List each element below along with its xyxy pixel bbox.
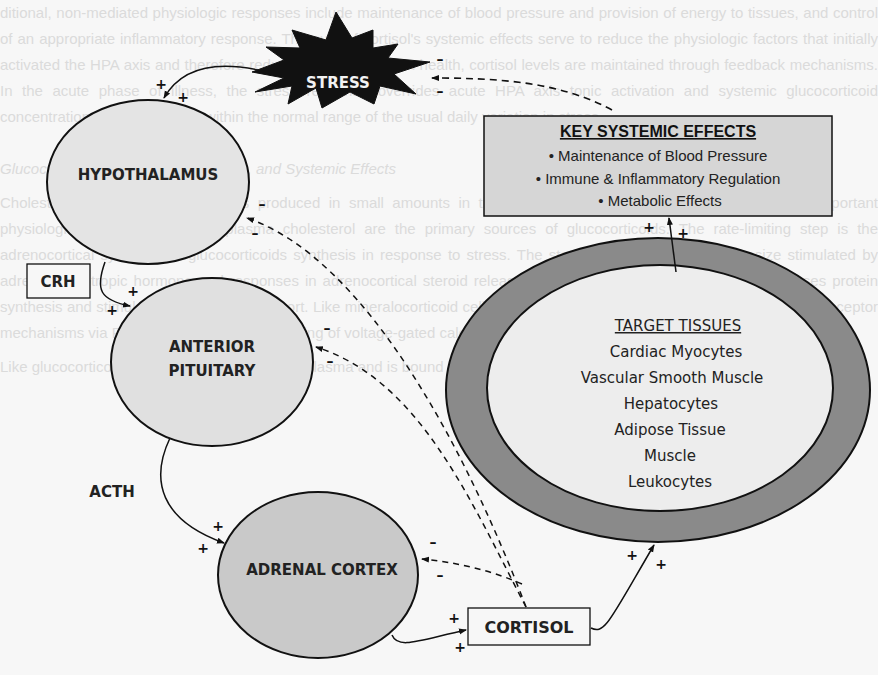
dashed-arrow-effects-to-stress — [432, 78, 612, 110]
anterior-pituitary-node: ANTERIOR PITUITARY — [111, 278, 313, 446]
plus-sign: + — [626, 547, 638, 563]
minus-sign: – — [437, 567, 444, 583]
key-effect-item: • Immune & Inflammatory Regulation — [536, 170, 781, 187]
plus-sign: + — [448, 610, 460, 626]
minus-sign: – — [327, 353, 334, 369]
target-tissues-node: TARGET TISSUES Cardiac Myocytes Vascular… — [446, 238, 870, 542]
target-tissue-item: Adipose Tissue — [614, 421, 725, 439]
arrow-hypothalamus-to-pituitary — [100, 262, 130, 306]
plus-sign: + — [197, 540, 209, 556]
crh-box: CRH — [27, 264, 90, 298]
key-effect-item: • Metabolic Effects — [598, 192, 721, 209]
plus-sign: + — [454, 639, 466, 655]
plus-sign: + — [106, 302, 118, 318]
plus-sign: + — [677, 225, 689, 241]
key-systemic-effects-title: KEY SYSTEMIC EFFECTS — [560, 123, 757, 140]
arrow-cortisol-to-tissues — [591, 545, 654, 630]
crh-label: CRH — [40, 273, 75, 291]
stress-burst-shape — [252, 12, 430, 108]
target-tissue-item: Hepatocytes — [624, 395, 719, 413]
hypothalamus-node: HYPOTHALAMUS — [47, 100, 249, 264]
plus-sign: + — [155, 76, 167, 92]
minus-sign: – — [430, 534, 437, 550]
adrenal-cortex-node: ADRENAL CORTEX — [218, 492, 418, 658]
target-tissues-title: TARGET TISSUES — [614, 317, 741, 335]
target-tissue-item: Cardiac Myocytes — [610, 343, 743, 361]
cortisol-label: CORTISOL — [484, 618, 573, 637]
stress-label: STRESS — [306, 74, 370, 92]
minus-sign: – — [437, 83, 444, 99]
plus-sign: + — [212, 518, 224, 534]
minus-sign: – — [252, 225, 259, 241]
cortisol-box: CORTISOL — [468, 608, 590, 645]
adrenal-cortex-label: ADRENAL CORTEX — [246, 561, 398, 579]
target-tissue-item: Leukocytes — [628, 473, 712, 491]
hpa-axis-diagram: TARGET TISSUES Cardiac Myocytes Vascular… — [0, 0, 878, 675]
plus-sign: + — [127, 283, 139, 299]
plus-sign: + — [655, 556, 667, 572]
stress-node: STRESS — [252, 12, 430, 108]
target-tissue-item: Muscle — [644, 447, 696, 465]
target-tissue-item: Vascular Smooth Muscle — [581, 369, 764, 387]
plus-sign: + — [177, 89, 189, 105]
key-systemic-effects-box: KEY SYSTEMIC EFFECTS • Maintenance of Bl… — [484, 116, 832, 216]
minus-sign: – — [259, 196, 266, 212]
acth-label: ACTH — [89, 483, 134, 501]
minus-sign: – — [324, 320, 331, 336]
anterior-pituitary-label-line1: ANTERIOR — [169, 338, 256, 356]
plus-sign: + — [643, 219, 655, 235]
hypothalamus-label: HYPOTHALAMUS — [78, 166, 219, 184]
minus-sign: – — [437, 51, 444, 67]
anterior-pituitary-label-line2: PITUITARY — [169, 362, 257, 380]
key-effect-item: • Maintenance of Blood Pressure — [549, 147, 768, 164]
